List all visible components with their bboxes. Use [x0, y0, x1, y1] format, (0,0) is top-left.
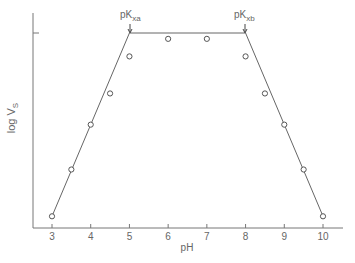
svg-text:pKxb: pKxb: [234, 9, 255, 23]
data-point: [320, 214, 325, 219]
arrow-down-icon: [128, 24, 132, 33]
data-point: [107, 91, 112, 96]
data-point: [166, 36, 171, 41]
x-tick-label: 7: [204, 231, 210, 242]
chart: 345678910 log VS pH pKxa pKxb: [0, 0, 355, 263]
data-points: [49, 36, 325, 219]
axes: [33, 13, 343, 228]
data-point: [69, 167, 74, 172]
annotation-pkxb: pKxb: [234, 9, 255, 33]
x-axis-label: pH: [181, 242, 194, 253]
data-point: [204, 36, 209, 41]
data-point: [243, 54, 248, 59]
x-tick-label: 9: [282, 231, 288, 242]
x-ticks: [52, 224, 323, 228]
x-tick-label: 5: [127, 231, 133, 242]
y-axis-label: log VS: [5, 103, 20, 133]
data-point: [262, 91, 267, 96]
x-tick-labels: 345678910: [49, 231, 329, 242]
data-point: [49, 214, 54, 219]
x-tick-label: 4: [88, 231, 94, 242]
x-tick-label: 3: [49, 231, 55, 242]
data-point: [88, 122, 93, 127]
data-point: [127, 54, 132, 59]
svg-text:pKxa: pKxa: [120, 9, 141, 23]
x-tick-label: 6: [165, 231, 171, 242]
data-point: [301, 167, 306, 172]
annotation-pkxa: pKxa: [120, 9, 141, 33]
x-tick-label: 8: [243, 231, 249, 242]
x-tick-label: 10: [317, 231, 329, 242]
data-point: [282, 122, 287, 127]
arrow-down-icon: [243, 24, 247, 33]
